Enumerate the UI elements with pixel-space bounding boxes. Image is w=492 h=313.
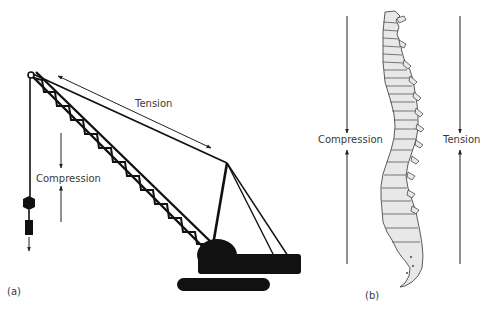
crane-compression-label: Compression bbox=[36, 173, 101, 184]
panel-a-caption: (a) bbox=[7, 286, 21, 297]
crane-spine-figure: Tension Compression (a) Compression Tens… bbox=[0, 0, 492, 313]
crane-illustration: Tension Compression (a) bbox=[7, 72, 301, 297]
backstay-2 bbox=[227, 163, 288, 256]
panel-b-caption: (b) bbox=[365, 290, 379, 301]
crawler-track bbox=[177, 278, 270, 291]
load-weight bbox=[25, 220, 33, 235]
vertebral-column bbox=[381, 11, 424, 287]
pendant-cable bbox=[33, 74, 227, 163]
a-frame-mast bbox=[213, 163, 227, 245]
hook-block-icon bbox=[23, 196, 35, 210]
spine-illustration: Compression Tension bbox=[318, 11, 480, 301]
spine-tension-label: Tension bbox=[442, 134, 480, 145]
crane-tension-label: Tension bbox=[134, 98, 172, 109]
crane-body bbox=[198, 254, 301, 274]
backstay-1 bbox=[227, 163, 274, 256]
tension-arrow bbox=[58, 76, 211, 148]
crane-boom bbox=[30, 72, 213, 250]
spine-compression-label: Compression bbox=[318, 134, 383, 145]
